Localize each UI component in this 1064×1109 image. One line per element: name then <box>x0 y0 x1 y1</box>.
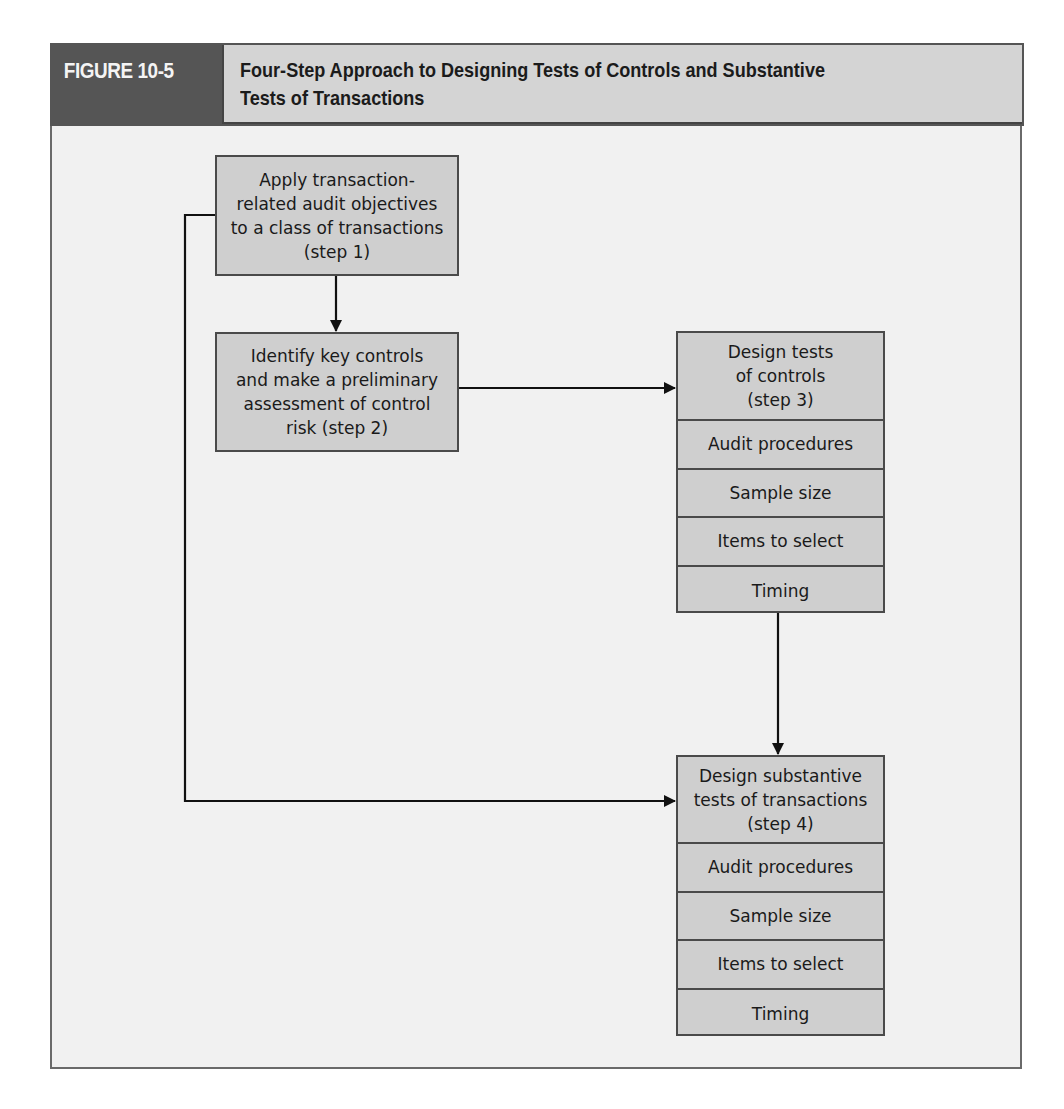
step-4-row-items-to-select: Items to select <box>678 941 883 990</box>
step-3-row-timing: Timing <box>678 567 883 616</box>
step-3-header-line: (step 3) <box>728 388 834 412</box>
step-3-header-line: of controls <box>728 364 834 388</box>
step-1-text-line: to a class of transactions <box>231 216 444 240</box>
connector-arrows <box>0 0 1064 1109</box>
arrow-step1-to-step4 <box>185 215 675 801</box>
step-2-text-line: risk (step 2) <box>236 416 438 440</box>
step-1-text-line: related audit objectives <box>231 192 444 216</box>
step-1-text-line: (step 1) <box>231 240 444 264</box>
step-4-row-sample-size: Sample size <box>678 893 883 942</box>
step-3-header-line: Design tests <box>728 340 834 364</box>
step-4-header: Design substantive tests of transactions… <box>678 757 883 844</box>
step-3-box: Design tests of controls (step 3) Audit … <box>676 331 885 613</box>
step-1-box: Apply transaction- related audit objecti… <box>215 155 459 276</box>
step-2-text-line: Identify key controls <box>236 344 438 368</box>
step-4-row-timing: Timing <box>678 990 883 1039</box>
step-3-row-items-to-select: Items to select <box>678 518 883 567</box>
step-3-header: Design tests of controls (step 3) <box>678 333 883 421</box>
step-4-header-line: Design substantive <box>694 764 868 788</box>
step-1-text-line: Apply transaction- <box>231 168 444 192</box>
step-2-box: Identify key controls and make a prelimi… <box>215 332 459 452</box>
step-4-row-audit-procedures: Audit procedures <box>678 844 883 893</box>
step-3-row-audit-procedures: Audit procedures <box>678 421 883 470</box>
step-4-box: Design substantive tests of transactions… <box>676 755 885 1036</box>
step-2-text-line: and make a preliminary <box>236 368 438 392</box>
step-4-header-line: (step 4) <box>694 812 868 836</box>
step-4-header-line: tests of transactions <box>694 788 868 812</box>
step-3-row-sample-size: Sample size <box>678 470 883 519</box>
step-2-text-line: assessment of control <box>236 392 438 416</box>
